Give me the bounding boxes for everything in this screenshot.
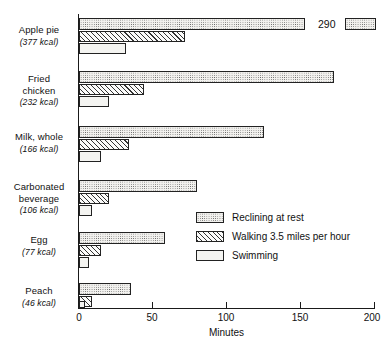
category-kcal: (232 kcal) bbox=[1, 96, 77, 109]
bar-apple-pie-reclining-tail bbox=[345, 18, 376, 30]
x-tick-label-100: 100 bbox=[218, 312, 235, 323]
legend: Reclining at rest Walking 3.5 miles per … bbox=[196, 210, 376, 267]
category-label-carbonated-beverage: Carbonated beverage (106 kcal) bbox=[1, 181, 77, 217]
category-kcal: (166 kcal) bbox=[1, 143, 77, 156]
bar-egg-swimming bbox=[79, 257, 89, 268]
category-label-fried-chicken: Fried chicken (232 kcal) bbox=[1, 73, 77, 109]
bar-milk-whole-reclining bbox=[79, 126, 264, 138]
category-label-egg: Egg (77 kcal) bbox=[1, 234, 77, 258]
bar-milk-whole-walking bbox=[79, 139, 129, 150]
category-label-peach: Peach (46 kcal) bbox=[1, 285, 77, 309]
category-name: Fried chicken bbox=[1, 73, 77, 96]
legend-item-reclining-at-rest: Reclining at rest bbox=[196, 210, 376, 229]
legend-label: Walking 3.5 miles per hour bbox=[232, 229, 350, 244]
bar-peach-swimming bbox=[79, 301, 85, 308]
category-kcal: (377 kcal) bbox=[1, 36, 77, 49]
bar-egg-reclining bbox=[79, 232, 165, 244]
legend-swatch-plain-icon bbox=[196, 250, 224, 261]
legend-item-walking: Walking 3.5 miles per hour bbox=[196, 229, 376, 248]
category-name: Apple pie bbox=[1, 24, 77, 36]
bar-apple-pie-reclining bbox=[79, 18, 305, 30]
legend-swatch-hatch-icon bbox=[196, 231, 224, 242]
x-tick-label-200: 200 bbox=[364, 312, 381, 323]
x-tick-100 bbox=[226, 302, 227, 309]
category-name: Peach bbox=[1, 285, 77, 297]
category-name: Egg bbox=[1, 234, 77, 246]
bar-fried-chicken-swimming bbox=[79, 96, 109, 107]
bar-egg-walking bbox=[79, 245, 101, 256]
bar-apple-pie-swimming bbox=[79, 43, 126, 54]
x-tick-50 bbox=[152, 302, 153, 309]
category-label-apple-pie: Apple pie (377 kcal) bbox=[1, 24, 77, 48]
legend-swatch-dots-icon bbox=[196, 212, 224, 223]
x-tick-150 bbox=[300, 302, 301, 309]
bar-fried-chicken-reclining bbox=[79, 71, 334, 83]
x-tick-label-150: 150 bbox=[292, 312, 309, 323]
category-label-milk-whole: Milk, whole (166 kcal) bbox=[1, 131, 77, 155]
bar-carbonated-beverage-walking bbox=[79, 193, 109, 204]
x-tick-label-0: 0 bbox=[76, 312, 82, 323]
bar-peach-reclining bbox=[79, 283, 131, 295]
x-tick-200 bbox=[374, 302, 375, 309]
x-tick-label-50: 50 bbox=[146, 312, 157, 323]
legend-item-swimming: Swimming bbox=[196, 248, 376, 267]
calorie-expenditure-bar-chart: Apple pie (377 kcal) Fried chicken (232 … bbox=[0, 0, 383, 352]
bar-value-apple-pie-reclining: 290 bbox=[318, 18, 336, 30]
bar-milk-whole-swimming bbox=[79, 151, 101, 162]
category-name: Milk, whole bbox=[1, 131, 77, 143]
x-axis-title: Minutes bbox=[78, 327, 375, 338]
category-name: Carbonated beverage bbox=[1, 181, 77, 204]
legend-label: Swimming bbox=[232, 248, 278, 263]
legend-label: Reclining at rest bbox=[232, 210, 304, 225]
bar-carbonated-beverage-swimming bbox=[79, 205, 92, 216]
bar-apple-pie-walking bbox=[79, 31, 185, 42]
category-kcal: (46 kcal) bbox=[1, 297, 77, 310]
category-kcal: (77 kcal) bbox=[1, 246, 77, 259]
bar-fried-chicken-walking bbox=[79, 84, 144, 95]
bar-carbonated-beverage-reclining bbox=[79, 180, 197, 192]
category-kcal: (106 kcal) bbox=[1, 204, 77, 217]
